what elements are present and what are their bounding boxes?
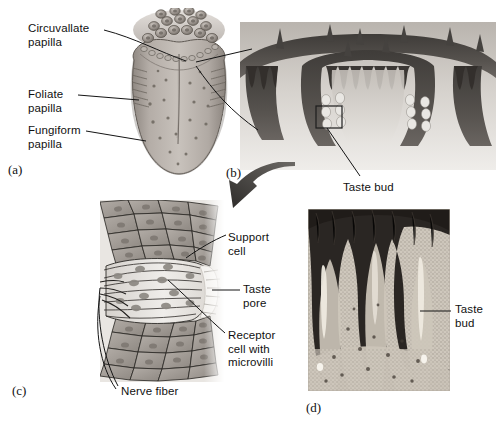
- label-support-cell: Support cell: [228, 231, 269, 258]
- label-nerve-fiber: Nerve fiber: [121, 385, 178, 399]
- panel-b-papilla-section: [240, 22, 496, 170]
- label-taste-bud-panel-b: Taste bud: [343, 181, 394, 195]
- label-foliate-papilla: Foliate papilla: [28, 88, 63, 115]
- panel-a-tongue-illustration: [120, 8, 238, 176]
- panel-d-micrograph: [308, 209, 450, 391]
- label-fungiform-papilla: Fungiform papilla: [28, 124, 81, 151]
- taste-anatomy-figure: Circuvallate papilla Foliate papilla Fun…: [0, 0, 496, 423]
- taste-bud-body: [106, 259, 210, 324]
- label-taste-pore: Taste pore: [243, 283, 271, 310]
- label-taste-bud-panel-d: Taste bud: [455, 303, 483, 330]
- label-circuvallate-papilla: Circuvallate papilla: [28, 22, 89, 49]
- label-receptor-cell-microvilli: Receptor cell with microvilli: [228, 329, 275, 370]
- panel-letter-c: (c): [12, 383, 26, 399]
- panel-letter-b: (b): [226, 165, 241, 181]
- panel-letter-d: (d): [306, 400, 321, 416]
- panel-letter-a: (a): [8, 162, 22, 178]
- panel-c-taste-bud-detail: [100, 200, 224, 382]
